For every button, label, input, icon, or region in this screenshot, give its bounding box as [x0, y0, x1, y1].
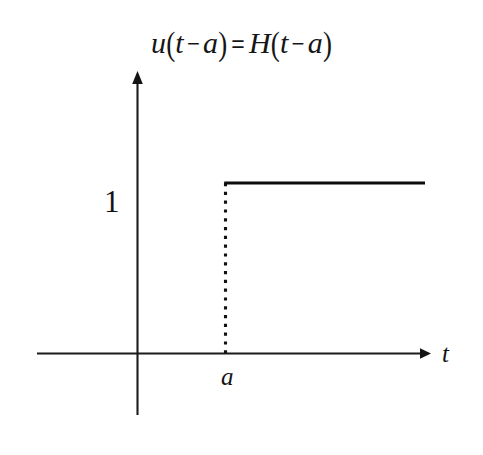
plot-canvas — [0, 0, 483, 455]
x-axis-tick-label-a: a — [221, 364, 234, 389]
y-axis-arrowhead-icon — [132, 71, 143, 84]
y-axis-value-label-one: 1 — [104, 186, 120, 217]
x-axis-label-t: t — [442, 341, 449, 366]
x-axis — [37, 348, 431, 359]
y-axis — [132, 71, 143, 415]
unit-step-function-figure: u(t−a)=H(t−a) 1 t a — [0, 0, 483, 455]
x-axis-arrowhead-icon — [420, 348, 431, 359]
